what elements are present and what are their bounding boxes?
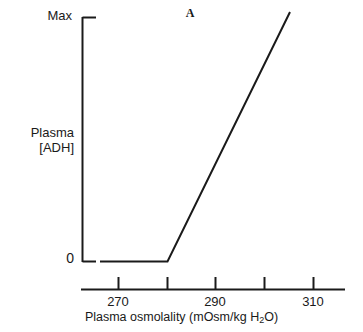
y-axis-tick-label-zero: 0 — [0, 251, 74, 267]
y-axis-title-line-1: Plasma — [0, 126, 74, 141]
y-axis-title-line-2: [ADH] — [0, 141, 74, 156]
y-axis-tick-label-max: Max — [0, 9, 72, 24]
x-axis-tick-label-290: 290 — [185, 294, 245, 309]
chart-plot-area — [0, 0, 363, 332]
x-axis-title-after: O) — [264, 310, 278, 324]
adh-osmolality-figure: Max 0 Plasma [ADH] A 270 290 310 Plasma … — [0, 0, 363, 332]
y-axis-title: Plasma [ADH] — [0, 126, 74, 155]
x-axis-tick-label-310: 310 — [283, 294, 343, 309]
panel-label-a: A — [170, 7, 210, 20]
adh-response-curve — [100, 12, 290, 262]
x-axis-tick-label-270: 270 — [88, 294, 148, 309]
x-axis-title-before: Plasma osmolality (mOsm/kg H — [85, 310, 259, 324]
x-axis-title: Plasma osmolality (mOsm/kg H2O) — [0, 310, 363, 325]
